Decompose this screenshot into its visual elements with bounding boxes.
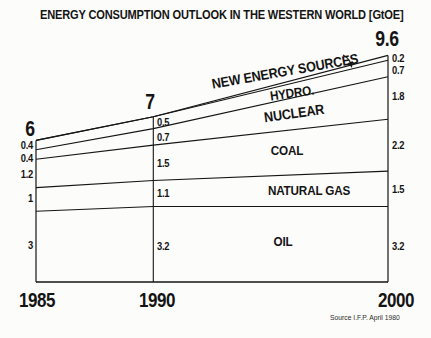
value-oil-1990: 3.2 — [157, 241, 171, 252]
total-label-1985: 6 — [24, 118, 36, 140]
chart-canvas — [0, 0, 431, 338]
band-label-natural-gas: NATURAL GAS — [263, 184, 354, 197]
value-nuclear-1990: 0.7 — [157, 132, 171, 143]
value-coal-1985: 1.2 — [19, 169, 33, 180]
value-new-energy-2000: 0.2 — [392, 53, 406, 64]
total-label-2000: 9.6 — [372, 28, 401, 50]
band-label-coal: COAL — [269, 144, 305, 157]
value-hydro-1990: 0.5 — [157, 117, 171, 128]
year-label-1990: 1990 — [136, 290, 179, 310]
chart-title: ENERGY CONSUMPTION OUTLOOK IN THE WESTER… — [0, 8, 431, 22]
value-oil-1985: 3 — [27, 240, 33, 251]
boundary-coal — [36, 119, 388, 159]
boundary-hydro- — [36, 60, 388, 140]
value-nuclear-2000: 1.8 — [392, 91, 406, 102]
value-gas-1990: 1.1 — [157, 188, 171, 199]
value-gas-2000: 1.5 — [392, 184, 406, 195]
value-hydro-1985: 0.4 — [19, 140, 33, 151]
value-coal-1990: 1.5 — [157, 158, 171, 169]
total-label-1990: 7 — [144, 91, 156, 113]
value-oil-2000: 3.2 — [392, 241, 406, 252]
value-gas-1985: 1 — [27, 193, 33, 204]
year-label-1985: 1985 — [16, 290, 59, 310]
value-hydro-2000: 0.7 — [392, 65, 406, 76]
source-note: Source I.F.P. April 1980 — [330, 314, 407, 322]
boundary-oil — [36, 207, 388, 212]
band-label-oil: OIL — [272, 235, 293, 248]
chart: ENERGY CONSUMPTION OUTLOOK IN THE WESTER… — [0, 0, 431, 338]
year-label-2000: 2000 — [375, 290, 418, 310]
value-nuclear-1985: 0.4 — [19, 153, 33, 164]
value-coal-2000: 2.2 — [392, 140, 406, 151]
